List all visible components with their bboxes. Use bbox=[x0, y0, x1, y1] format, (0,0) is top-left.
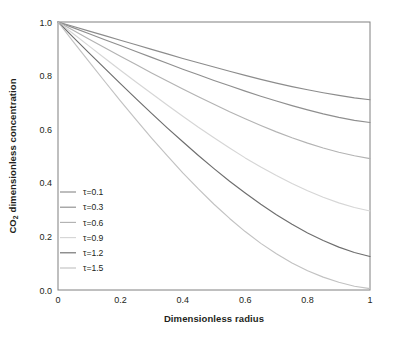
x-tick-label: 1 bbox=[367, 295, 372, 305]
legend-label: τ=0.1 bbox=[83, 187, 104, 197]
x-axis-title: Dimensionless radius bbox=[164, 313, 264, 324]
x-tick-label: 0.2 bbox=[114, 295, 127, 305]
legend-label: τ=0.9 bbox=[83, 233, 104, 243]
y-axis-title: CO2 dimensionless concentration bbox=[7, 78, 19, 233]
x-tick-label: 0.4 bbox=[177, 295, 190, 305]
y-tick-label: 0.0 bbox=[39, 286, 52, 296]
x-tick-label: 0 bbox=[55, 295, 60, 305]
y-tick-label: 0.8 bbox=[39, 71, 52, 81]
y-axis-title-suffix: dimensionless concentration bbox=[7, 78, 18, 215]
legend-label: τ=1.2 bbox=[83, 248, 104, 258]
x-tick-label: 0.6 bbox=[239, 295, 252, 305]
svg-text:CO2 dimensionless concentratio: CO2 dimensionless concentration bbox=[7, 78, 19, 233]
y-tick-label: 0.2 bbox=[39, 232, 52, 242]
y-axis-title-prefix: CO bbox=[7, 219, 18, 233]
chart-background bbox=[0, 0, 414, 339]
legend-label: τ=0.3 bbox=[83, 202, 104, 212]
y-tick-label: 1.0 bbox=[39, 18, 52, 28]
co2-concentration-chart: 1.0 0.8 0.6 0.4 0.2 0.0 0 0.2 0.4 0.6 0.… bbox=[0, 0, 414, 339]
y-tick-label: 0.4 bbox=[39, 178, 52, 188]
legend-label: τ=1.5 bbox=[83, 263, 104, 273]
legend-label: τ=0.6 bbox=[83, 218, 104, 228]
y-tick-label: 0.6 bbox=[39, 125, 52, 135]
x-tick-label: 0.8 bbox=[301, 295, 314, 305]
